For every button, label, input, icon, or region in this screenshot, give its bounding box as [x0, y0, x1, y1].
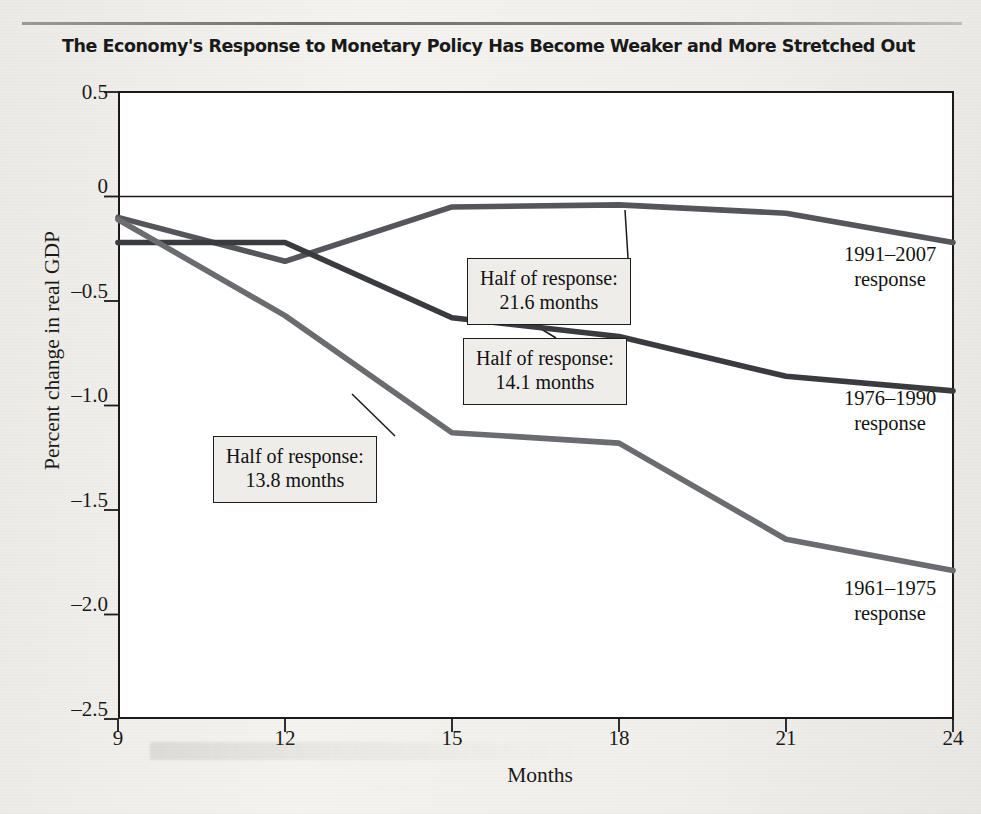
annotation-line-2: 13.8 months	[226, 468, 364, 492]
annotation-line-1: Half of response:	[226, 444, 364, 468]
annotation-line-1: Half of response:	[480, 266, 618, 290]
series-label-line-1: 1991–2007	[810, 242, 970, 267]
annotation-line-2: 21.6 months	[480, 290, 618, 314]
annotation-line-2: 14.1 months	[476, 370, 614, 394]
series-label-line-2: response	[810, 411, 970, 436]
series-label-line-1: 1961–1975	[810, 576, 970, 601]
annotation-line-1: Half of response:	[476, 346, 614, 370]
series-label-line-1: 1976–1990	[810, 386, 970, 411]
series-label-line-2: response	[810, 267, 970, 292]
figure-page: The Economy's Response to Monetary Polic…	[0, 0, 981, 814]
annotation-half-response-14-1: Half of response: 14.1 months	[463, 338, 627, 405]
series-label-1976-1990: 1976–1990 response	[810, 386, 970, 436]
annotation-half-response-21-6: Half of response: 21.6 months	[467, 258, 631, 325]
series-label-1961-1975: 1961–1975 response	[810, 576, 970, 626]
scan-artifact	[150, 742, 580, 760]
series-label-line-2: response	[810, 601, 970, 626]
annotation-half-response-13-8: Half of response: 13.8 months	[213, 436, 377, 503]
series-label-1991-2007: 1991–2007 response	[810, 242, 970, 292]
